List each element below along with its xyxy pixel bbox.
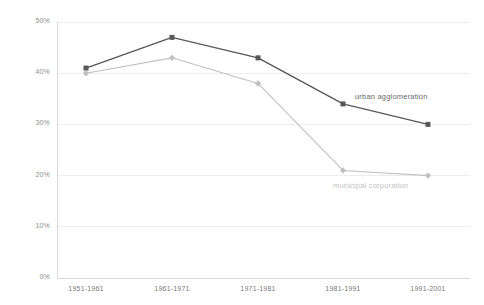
series-line-0	[86, 37, 428, 124]
y-tick-label: 0%	[16, 273, 50, 280]
x-tick-label: 1951-1961	[51, 285, 121, 292]
data-point-marker[interactable]	[83, 70, 89, 76]
y-tick-label: 10%	[16, 222, 50, 229]
y-tick-label: 20%	[16, 171, 50, 178]
y-tick-label: 30%	[16, 119, 50, 126]
x-tick-label: 1991-2001	[393, 285, 463, 292]
data-point-marker[interactable]	[341, 101, 346, 106]
series-line-1	[86, 58, 428, 176]
series-label-municipal-corporation: municipal corporation	[333, 181, 409, 190]
chart-container: 0%10%20%30%40%50% 1951-19611961-19711971…	[0, 0, 484, 305]
x-tick-label: 1971-1981	[223, 285, 293, 292]
data-point-marker[interactable]	[170, 35, 175, 40]
data-point-marker[interactable]	[256, 55, 261, 60]
data-point-marker[interactable]	[425, 172, 431, 178]
series-label-urban-agglomeration: urban agglomeration	[355, 92, 428, 101]
data-point-marker[interactable]	[169, 55, 175, 61]
series-markers-group	[83, 35, 431, 179]
x-tick-label: 1961-1971	[137, 285, 207, 292]
x-tick-label: 1981-1991	[308, 285, 378, 292]
data-point-marker[interactable]	[426, 122, 431, 127]
y-tick-label: 50%	[16, 17, 50, 24]
line-chart-plot	[0, 0, 484, 305]
data-point-marker[interactable]	[84, 66, 89, 71]
y-tick-label: 40%	[16, 68, 50, 75]
